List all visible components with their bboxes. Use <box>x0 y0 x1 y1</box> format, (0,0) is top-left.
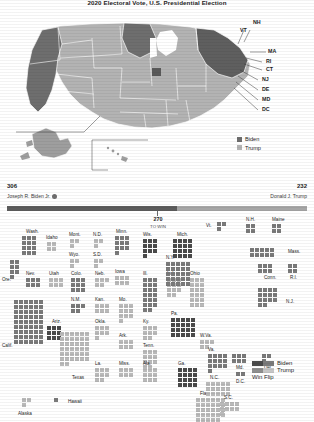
cartogram-cell <box>34 330 38 334</box>
cartogram-cell <box>24 315 28 319</box>
cartogram-label-nd: N.D. <box>93 233 102 238</box>
cartogram-cell <box>181 277 185 281</box>
cartogram-cell <box>19 315 23 319</box>
cartogram-cell <box>176 267 180 271</box>
cartogram-cell <box>186 262 190 266</box>
cartogram-cell <box>206 398 210 402</box>
cartogram-cell <box>181 262 185 266</box>
map-label-ri: RI <box>266 59 271 64</box>
cartogram-cell <box>235 402 239 406</box>
cartogram-cell <box>260 248 264 252</box>
cartogram-label-nm: N.M. <box>71 298 81 303</box>
cartogram-label-dc: D.C. <box>236 380 245 385</box>
us-map-svg <box>0 8 314 178</box>
cartogram-cell <box>70 239 74 243</box>
cartogram-label-tenn: Tenn. <box>143 344 154 349</box>
cartogram-cell <box>171 282 175 286</box>
cartogram-cell <box>31 283 35 287</box>
cartogram-label-va: Va. <box>208 348 215 353</box>
cartogram-cell <box>36 283 40 287</box>
cartogram-label-sd: S.D. <box>93 253 102 258</box>
trump-flip-swatch <box>252 368 263 373</box>
cartogram-label-calif: Calif. <box>2 344 12 349</box>
cartogram-cell <box>39 320 43 324</box>
cartogram-cell <box>143 244 147 248</box>
cartogram-cell <box>171 262 175 266</box>
cartogram-cell <box>60 347 64 351</box>
cartogram-cell <box>59 278 63 282</box>
cartogram-cell <box>148 293 152 297</box>
cartogram-label-idaho: Idaho <box>46 236 58 241</box>
cartogram-cell <box>22 246 26 250</box>
cartogram-cell <box>183 244 187 248</box>
cartogram-cell <box>251 229 255 233</box>
cartogram-cell <box>99 239 103 243</box>
cartogram-label-hawaii: Hawaii <box>68 400 82 405</box>
cartogram-cell <box>148 303 152 307</box>
cartogram-cell <box>263 264 267 268</box>
cartogram-cell <box>124 373 128 377</box>
cartogram-cell <box>32 246 36 250</box>
cartogram-cell <box>148 368 152 372</box>
cartogram-cell <box>143 288 147 292</box>
cartogram-label-wis: Wis. <box>143 233 152 238</box>
cartogram-cell <box>10 260 14 264</box>
cartogram-cell <box>24 305 28 309</box>
cartogram-cell <box>19 320 23 324</box>
cartogram-cell <box>206 382 210 386</box>
cartogram-cell <box>49 283 53 287</box>
cartogram-cell <box>268 288 272 292</box>
cartogram-cell <box>29 320 33 324</box>
cartogram-cell <box>31 278 35 282</box>
cartogram-cell <box>143 350 147 354</box>
cartogram-cell <box>148 355 152 359</box>
cartogram-cell <box>183 373 187 377</box>
cartogram-cell <box>167 293 171 297</box>
cartogram-cell <box>47 326 51 330</box>
cartogram-cell <box>65 357 69 361</box>
cartogram-cell <box>171 267 175 271</box>
cartogram-cell <box>153 249 157 253</box>
map-label-nh: NH <box>253 20 261 25</box>
cartogram-cell <box>39 335 43 339</box>
cartogram-cell <box>226 382 230 386</box>
cartogram-cell <box>200 298 204 302</box>
cartogram-cell <box>143 254 147 258</box>
cartogram-cell <box>26 283 30 287</box>
cartogram-cell <box>218 359 222 363</box>
cartogram-cell <box>143 278 147 282</box>
cartogram-cell <box>120 236 124 240</box>
cartogram-cell <box>216 382 220 386</box>
cartogram-cell <box>80 347 84 351</box>
cartogram-cell <box>125 281 129 285</box>
cartogram-cell <box>59 283 63 287</box>
cartogram-cell <box>153 239 157 243</box>
biden-swatch <box>237 137 242 142</box>
map-lake-michigan <box>150 38 157 58</box>
cartogram-cell <box>176 277 180 281</box>
cartogram-cell <box>241 372 245 376</box>
cartogram-cell <box>176 333 180 337</box>
cartogram-cell <box>115 276 119 280</box>
cartogram-cell <box>100 278 104 282</box>
cartogram-cell <box>208 364 212 368</box>
cartogram-cell <box>277 229 281 233</box>
cartogram-cell <box>188 383 192 387</box>
cartogram-cell <box>34 340 38 344</box>
cartogram-label-ark: Ark. <box>119 334 127 339</box>
cartogram-cell <box>14 335 18 339</box>
cartogram-trump-label: Trump <box>277 367 294 373</box>
cartogram-cell <box>166 282 170 286</box>
cartogram-cell <box>125 241 129 245</box>
cartogram-cell <box>47 331 51 335</box>
cartogram-cell <box>255 248 259 252</box>
cartogram-cell <box>176 272 180 276</box>
cartogram-cell <box>178 383 182 387</box>
cartogram-cell <box>115 281 119 285</box>
cartogram-cell <box>171 333 175 337</box>
cartogram-cell <box>85 357 89 361</box>
cartogram-cell <box>166 272 170 276</box>
cartogram-cell <box>14 340 18 344</box>
cartogram-cell <box>129 314 133 318</box>
cartogram-cell <box>52 242 56 246</box>
